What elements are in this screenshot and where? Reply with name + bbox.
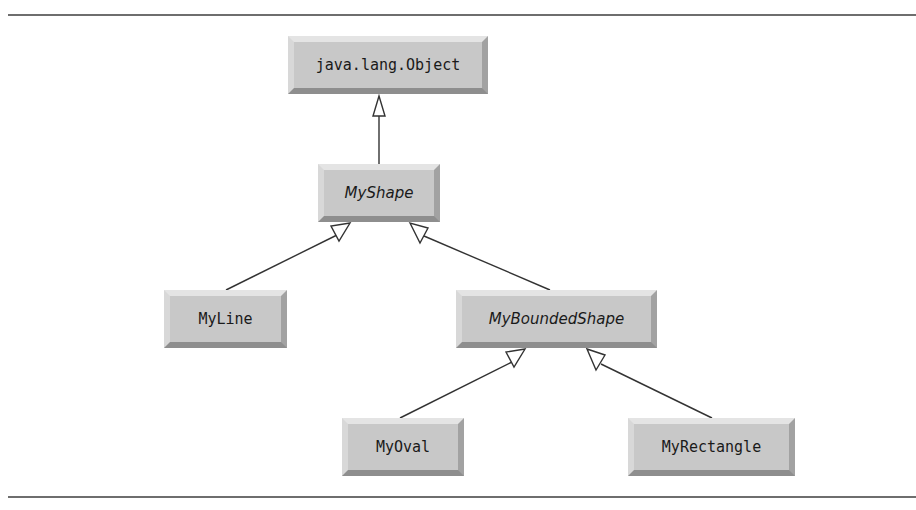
class-box-myrectangle: MyRectangle	[628, 418, 795, 476]
generalization-arrowhead-icon	[410, 223, 428, 243]
generalization-arrowhead-icon	[587, 349, 605, 370]
class-box-myline: MyLine	[164, 290, 287, 348]
edge-myboundedshape-myshape	[424, 236, 550, 290]
edge-myrectangle-myboundedshape	[601, 364, 712, 418]
class-box-myboundedshape: MyBoundedShape	[456, 290, 657, 348]
class-name: MyShape	[345, 184, 414, 202]
class-name: java.lang.Object	[316, 56, 461, 74]
class-name: MyRectangle	[662, 438, 761, 456]
class-box-myshape: MyShape	[318, 164, 440, 222]
class-box-java-lang-object: java.lang.Object	[288, 36, 488, 94]
class-box-myoval: MyOval	[342, 418, 464, 476]
generalization-arrowhead-icon	[373, 96, 385, 116]
class-name: MyBoundedShape	[489, 310, 625, 328]
class-name: MyOval	[376, 438, 430, 456]
generalization-arrowhead-icon	[331, 223, 350, 241]
edge-myoval-myboundedshape	[400, 362, 512, 418]
edge-myline-myshape	[226, 235, 337, 290]
class-name: MyLine	[198, 310, 252, 328]
